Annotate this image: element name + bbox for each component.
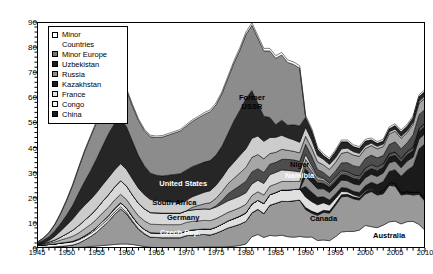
legend-label: China — [62, 110, 82, 120]
legend-label: Kazakhstan — [62, 80, 101, 90]
y-tick-label: 70 — [28, 68, 37, 77]
x-tick-label: 1990 — [297, 248, 314, 257]
legend-swatch — [52, 71, 58, 77]
y-tick-label: 60 — [28, 93, 37, 102]
x-tick-label: 2010 — [417, 248, 433, 257]
legend-label: Minor Europe — [62, 50, 107, 60]
x-tick-label: 1955 — [88, 248, 105, 257]
legend-label: France — [62, 90, 85, 100]
legend-swatch — [52, 81, 58, 87]
x-tick-label: 1970 — [178, 248, 195, 257]
x-tick-label: 1945 — [29, 248, 46, 257]
y-tick-label: 50 — [28, 118, 37, 127]
chart-container: Annual Uranium Production (kt U3O8) 0102… — [0, 0, 433, 274]
legend-swatch — [52, 61, 58, 67]
legend-label: Congo — [62, 100, 84, 110]
legend-item: Minor Countries — [52, 30, 123, 49]
y-tick-label: 30 — [28, 168, 37, 177]
legend-label: Uzbekistan — [62, 60, 99, 70]
y-tick-label: 90 — [28, 18, 37, 27]
legend-item: Congo — [52, 100, 123, 110]
legend-item: Minor Europe — [52, 50, 123, 60]
y-axis-label: Annual Uranium Production (kt U3O8) — [0, 0, 15, 16]
x-tick-label: 1950 — [59, 248, 76, 257]
legend-swatch — [52, 101, 58, 107]
y-tick-label: 80 — [28, 43, 37, 52]
legend-item: Uzbekistan — [52, 60, 123, 70]
legend-item: France — [52, 90, 123, 100]
legend-item: Kazakhstan — [52, 80, 123, 90]
legend-swatch — [52, 32, 58, 38]
legend-swatch — [52, 91, 58, 97]
legend-label: Minor Countries — [62, 30, 94, 49]
x-tick-label: 1980 — [238, 248, 255, 257]
y-axis-ticks: 0102030405060708090 — [14, 0, 37, 274]
y-tick-label: 40 — [28, 143, 37, 152]
x-tick-label: 1985 — [267, 248, 284, 257]
legend-swatch — [52, 111, 58, 117]
legend-item: China — [52, 110, 123, 120]
legend-label: Russia — [62, 70, 85, 80]
x-tick-label: 1965 — [148, 248, 165, 257]
x-tick-label: 2000 — [357, 248, 374, 257]
x-tick-label: 2005 — [387, 248, 404, 257]
x-tick-label: 1995 — [327, 248, 344, 257]
x-tick-label: 1975 — [208, 248, 225, 257]
y-tick-label: 20 — [28, 193, 37, 202]
x-axis-ticks: 1945195019551960196519701975198019851990… — [0, 248, 433, 262]
legend-swatch — [52, 51, 58, 57]
legend-item: Russia — [52, 70, 123, 80]
x-tick-label: 1960 — [118, 248, 135, 257]
y-tick-label: 10 — [28, 218, 37, 227]
chart-legend: Minor CountriesMinor EuropeUzbekistanRus… — [48, 26, 128, 124]
